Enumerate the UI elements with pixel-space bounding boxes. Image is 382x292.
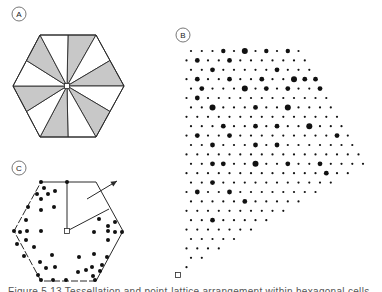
- lattice-dot: [297, 200, 299, 202]
- lattice-dot: [282, 172, 284, 174]
- lattice-dot: [357, 153, 359, 155]
- lattice-dot: [239, 191, 241, 193]
- lattice-dot: [314, 116, 316, 118]
- scatter-dot: [38, 260, 42, 264]
- lattice-dot-large: [275, 143, 280, 148]
- lattice-dot: [233, 88, 235, 90]
- lattice-dot: [196, 247, 198, 249]
- lattice-dot: [201, 106, 203, 108]
- scatter-dot: [113, 220, 117, 224]
- lattice-dot: [185, 191, 187, 193]
- lattice-dot: [293, 191, 295, 193]
- lattice-dot: [261, 59, 263, 61]
- lattice-dot: [308, 144, 310, 146]
- lattice-dot: [304, 153, 306, 155]
- lattice-dot: [239, 78, 241, 80]
- lattice-dot: [276, 88, 278, 90]
- lattice-dot: [282, 116, 284, 118]
- lattice-dot: [265, 219, 267, 221]
- lattice-dot: [293, 59, 295, 61]
- lattice-dot: [190, 88, 192, 90]
- lattice-dot: [233, 106, 235, 108]
- scatter-dot: [15, 242, 19, 246]
- lattice-dot: [282, 153, 284, 155]
- lattice-dot: [261, 153, 263, 155]
- scatter-dot: [97, 217, 101, 221]
- lattice-dot-large: [242, 199, 247, 204]
- lattice-dot: [265, 69, 267, 71]
- lattice-dot: [271, 172, 273, 174]
- lattice-dot: [319, 125, 321, 127]
- lattice-dot: [265, 182, 267, 184]
- lattice-dot: [207, 172, 209, 174]
- arrow-head: [110, 181, 117, 186]
- lattice-dot: [190, 257, 192, 259]
- lattice-dot: [211, 238, 213, 240]
- lattice-dot: [239, 97, 241, 99]
- lattice-dot: [222, 69, 224, 71]
- scatter-dot: [24, 238, 28, 242]
- lattice-dot: [244, 69, 246, 71]
- scatter-dot: [52, 205, 56, 209]
- lattice-dot: [201, 257, 203, 259]
- lattice-dot: [218, 116, 220, 118]
- lattice-dot: [222, 88, 224, 90]
- lattice-dot: [261, 210, 263, 212]
- lattice-dot: [190, 144, 192, 146]
- scatter-dot: [98, 269, 102, 273]
- scatter-dot: [39, 208, 43, 212]
- lattice-dot: [185, 210, 187, 212]
- lattice-dot: [293, 116, 295, 118]
- lattice-dot: [304, 97, 306, 99]
- lattice-dot: [207, 210, 209, 212]
- lattice-dot-large: [227, 190, 232, 195]
- lattice-dot: [244, 163, 246, 165]
- lattice-dot: [250, 135, 252, 137]
- lattice-dot-large: [195, 58, 200, 63]
- lattice-dot: [351, 144, 353, 146]
- lattice-dot: [347, 135, 349, 137]
- scatter-dot: [50, 253, 54, 257]
- scatter-dot: [53, 265, 57, 269]
- lattice-dot-large: [313, 77, 318, 82]
- lattice-dot: [271, 59, 273, 61]
- lattice-dot: [190, 125, 192, 127]
- lattice-dot-large: [227, 58, 232, 63]
- lattice-dot: [201, 163, 203, 165]
- lattice-dot: [201, 50, 203, 52]
- scatter-dot: [100, 263, 104, 267]
- lattice-dot: [271, 191, 273, 193]
- lattice-dot: [287, 200, 289, 202]
- lattice-dot: [222, 182, 224, 184]
- lattice-dot-large: [253, 124, 258, 129]
- lattice-dot: [239, 59, 241, 61]
- lattice-dot: [282, 59, 284, 61]
- lattice-dot: [325, 97, 327, 99]
- lattice-dot: [239, 229, 241, 231]
- scatter-dot: [105, 255, 109, 259]
- lattice-dot: [347, 153, 349, 155]
- center-square-a: [65, 84, 70, 89]
- lattice-dot: [340, 125, 342, 127]
- scatter-dot: [39, 278, 43, 282]
- lattice-dot: [211, 200, 213, 202]
- lattice-dot: [201, 182, 203, 184]
- lattice-dot: [185, 59, 187, 61]
- lattice-dot: [250, 210, 252, 212]
- scatter-dot: [39, 197, 43, 201]
- lattice-dot: [276, 106, 278, 108]
- lattice-dot: [233, 144, 235, 146]
- lattice-dot: [351, 163, 353, 165]
- scatter-dot: [36, 273, 40, 277]
- lattice-dot: [265, 200, 267, 202]
- scatter-dot: [25, 229, 29, 233]
- lattice-dot: [276, 163, 278, 165]
- arrow-icon: [87, 181, 117, 199]
- hexagon-edge: [96, 231, 123, 281]
- lattice-dot-large: [210, 180, 215, 185]
- lattice-dot: [297, 182, 299, 184]
- lattice-dot-large: [286, 49, 290, 53]
- lattice-dot: [233, 163, 235, 165]
- lattice-dot: [314, 172, 316, 174]
- panel-b: B: [176, 28, 365, 278]
